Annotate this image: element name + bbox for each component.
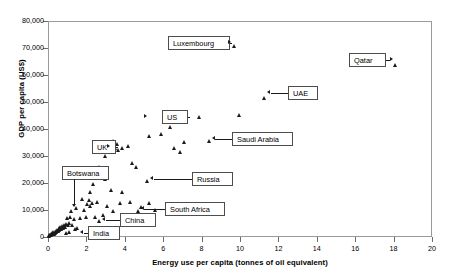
x-axis-tick <box>355 237 356 242</box>
data-point <box>84 215 88 219</box>
data-point <box>65 216 69 220</box>
y-axis-tick-label: 60,000 <box>0 71 44 78</box>
data-point <box>85 202 89 206</box>
leader-line <box>154 179 192 180</box>
x-axis-tick <box>394 237 395 242</box>
data-point <box>232 44 236 48</box>
x-axis-tick-label: 18 <box>379 244 409 253</box>
callout-us: US <box>162 110 188 124</box>
callout-india: India <box>88 226 120 240</box>
y-axis-tick-label: 10,000 <box>0 206 44 213</box>
data-point <box>72 217 76 221</box>
callout-botswana: Botswana <box>62 166 109 180</box>
data-point <box>120 190 124 194</box>
x-axis-tick-label: 16 <box>340 244 370 253</box>
leader-line <box>144 209 165 210</box>
data-point <box>197 115 201 119</box>
data-point <box>47 233 51 237</box>
data-point <box>178 150 182 154</box>
data-point <box>69 209 73 213</box>
x-axis-tick <box>48 237 49 242</box>
leader-arrow <box>144 114 147 118</box>
callout-saudi-arabia: Saudi Arabia <box>232 132 293 146</box>
leader-line <box>271 93 288 94</box>
data-point <box>262 96 266 100</box>
y-axis-tick-label: 50,000 <box>0 98 44 105</box>
data-point <box>126 144 130 148</box>
leader-arrow <box>107 144 110 148</box>
y-axis-tick-label: 0 <box>0 233 44 240</box>
leader-arrow <box>80 230 83 234</box>
data-point <box>88 190 92 194</box>
leader-line <box>215 139 232 140</box>
x-axis-tick <box>202 237 203 242</box>
data-point <box>68 215 72 219</box>
leader-arrow <box>150 176 153 180</box>
x-axis-tick <box>278 237 279 242</box>
leader-arrow <box>141 206 144 210</box>
leader-arrow <box>72 204 76 207</box>
leader-arrow <box>102 217 105 221</box>
data-point <box>82 208 86 212</box>
data-point <box>78 216 82 220</box>
leader-line <box>106 220 120 221</box>
data-point <box>105 204 109 208</box>
data-point <box>159 132 163 136</box>
data-point <box>168 125 172 129</box>
x-axis-tick-label: 0 <box>33 244 63 253</box>
callout-uae: UAE <box>288 86 318 100</box>
x-axis-tick <box>163 237 164 242</box>
data-point <box>207 139 211 143</box>
data-point <box>237 113 241 117</box>
leader-arrow <box>390 57 393 61</box>
leader-arrow <box>212 136 215 140</box>
y-axis-tick-label: 20,000 <box>0 179 44 186</box>
leader-arrow <box>228 40 231 44</box>
data-point <box>118 201 122 205</box>
callout-south-africa: South Africa <box>165 202 225 216</box>
data-point <box>80 197 84 201</box>
x-axis-tick-label: 14 <box>302 244 332 253</box>
leader-line <box>74 179 75 204</box>
y-axis-tick-label: 40,000 <box>0 125 44 132</box>
x-axis-tick-label: 4 <box>110 244 140 253</box>
x-axis-tick <box>317 237 318 242</box>
data-point <box>97 219 101 223</box>
y-axis-tick-label: 30,000 <box>0 152 44 159</box>
x-axis-tick-label: 2 <box>71 244 101 253</box>
x-axis-tick <box>240 237 241 242</box>
data-point <box>147 134 151 138</box>
y-axis-tick-label: 80,000 <box>0 17 44 24</box>
x-axis-tick-label: 10 <box>225 244 255 253</box>
data-point <box>91 182 95 186</box>
x-axis-tick <box>432 237 433 242</box>
callout-russia: Russia <box>192 172 233 186</box>
callout-uk: UK <box>92 140 116 154</box>
data-point <box>147 201 151 205</box>
callout-china: China <box>120 213 156 227</box>
data-point <box>182 140 186 144</box>
x-axis-title: Energy use per capita (tonnes of oil equ… <box>48 258 432 267</box>
callout-luxembourg: Luxembourg <box>168 36 230 50</box>
data-point <box>73 227 77 231</box>
data-point <box>120 146 124 150</box>
x-axis-tick-label: 6 <box>148 244 178 253</box>
x-axis-tick-label: 20 <box>417 244 447 253</box>
callout-qatar: Qatar <box>349 53 386 67</box>
data-point <box>95 200 99 204</box>
leader-arrow <box>267 90 270 94</box>
data-point <box>109 188 113 192</box>
leader-line <box>188 117 190 118</box>
data-point <box>145 179 149 183</box>
data-point <box>64 231 68 235</box>
data-point <box>111 209 115 213</box>
data-point <box>172 146 176 150</box>
data-point <box>393 63 397 67</box>
leader-line <box>84 233 88 234</box>
scatter-chart: GDP per capita (US$) Energy use per capi… <box>0 0 457 279</box>
x-axis-tick-label: 12 <box>263 244 293 253</box>
data-point <box>128 200 132 204</box>
x-axis-tick <box>125 237 126 242</box>
x-axis-tick-label: 8 <box>187 244 217 253</box>
y-axis-tick-label: 70,000 <box>0 44 44 51</box>
